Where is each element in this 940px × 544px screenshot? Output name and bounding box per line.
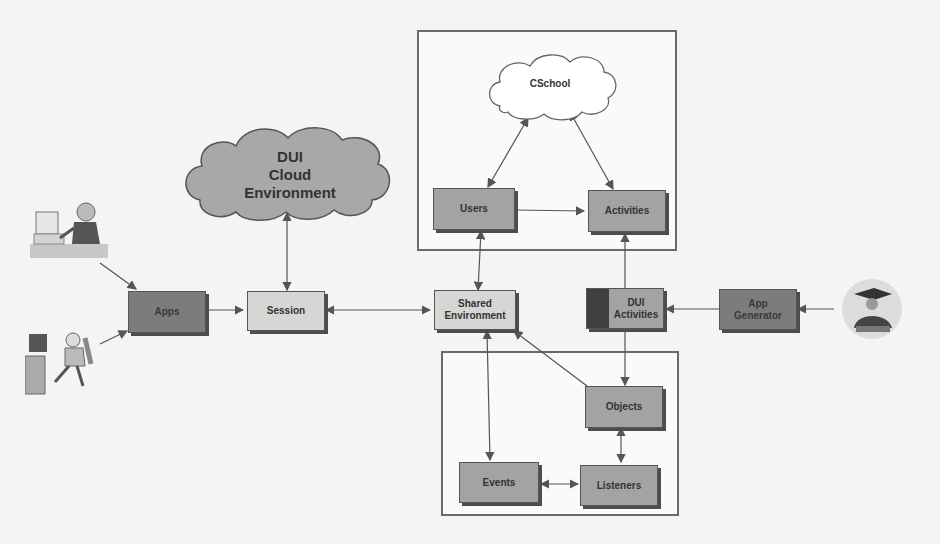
session-node[interactable]: Session — [247, 291, 325, 331]
apps-node[interactable]: Apps — [128, 291, 206, 333]
objects-label: Objects — [606, 401, 643, 413]
dui-cloud-label: DUI Cloud Environment — [200, 148, 380, 202]
cschool-cloud-label: CSchool — [510, 78, 590, 89]
users-label: Users — [460, 203, 488, 215]
session-label: Session — [267, 305, 305, 317]
graduate-developer-icon — [836, 278, 908, 340]
activities-node[interactable]: Activities — [588, 190, 666, 232]
events-node[interactable]: Events — [459, 462, 539, 503]
objects-node[interactable]: Objects — [585, 386, 663, 428]
listeners-node[interactable]: Listeners — [580, 465, 658, 506]
apps-label: Apps — [155, 306, 180, 318]
events-label: Events — [483, 477, 516, 489]
listeners-label: Listeners — [597, 480, 641, 492]
user-at-computer-icon — [30, 198, 110, 266]
shared-environment-node[interactable]: Shared Environment — [434, 290, 516, 330]
dui-activities-node[interactable]: DUI Activities — [586, 288, 664, 329]
app-generator-node[interactable]: App Generator — [719, 289, 797, 330]
users-node[interactable]: Users — [433, 188, 515, 230]
shared-environment-label: Shared Environment — [444, 298, 505, 322]
app-generator-label: App Generator — [734, 298, 782, 322]
activities-label: Activities — [605, 205, 649, 217]
dui-activities-label: DUI Activities — [614, 297, 658, 321]
user-relaxing-at-computer-icon — [25, 326, 105, 396]
